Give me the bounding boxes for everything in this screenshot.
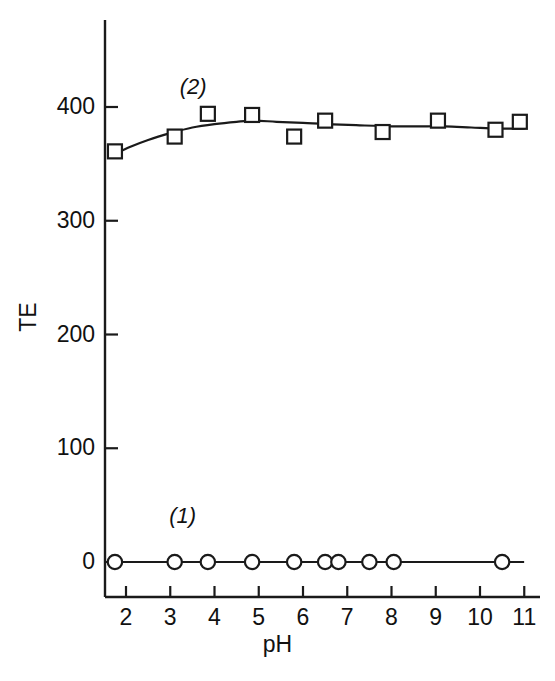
- data-point-square: [108, 144, 122, 158]
- data-point-square: [376, 125, 390, 139]
- data-point-square: [201, 107, 215, 121]
- data-point-square: [245, 108, 259, 122]
- x-tick-label: 11: [484, 606, 555, 629]
- y-tick-label: 300: [9, 209, 95, 232]
- x-axis-title: pH: [0, 633, 555, 656]
- series-markers: [108, 107, 527, 569]
- series-1-annotation: (1): [153, 505, 213, 527]
- y-tick-label: 400: [9, 95, 95, 118]
- data-point-square: [431, 114, 445, 128]
- y-tick-label: 200: [9, 323, 95, 346]
- data-point-circle: [495, 555, 509, 569]
- data-point-circle: [167, 555, 181, 569]
- data-point-circle: [201, 555, 215, 569]
- data-point-square: [488, 123, 502, 137]
- data-point-square: [287, 130, 301, 144]
- series-lines: [114, 121, 525, 562]
- y-tick-label: 100: [9, 436, 95, 459]
- data-point-circle: [245, 555, 259, 569]
- figure-canvas: TE 234567891011 0100200300400 pH (1) (2): [0, 0, 555, 681]
- data-point-circle: [331, 555, 345, 569]
- data-point-circle: [287, 555, 301, 569]
- data-point-circle: [362, 555, 376, 569]
- data-point-circle: [387, 555, 401, 569]
- data-point-square: [168, 130, 182, 144]
- data-point-square: [513, 115, 527, 129]
- data-point-circle: [108, 555, 122, 569]
- series-2-annotation: (2): [163, 76, 223, 98]
- y-tick-label: 0: [9, 550, 95, 573]
- data-point-square: [318, 114, 332, 128]
